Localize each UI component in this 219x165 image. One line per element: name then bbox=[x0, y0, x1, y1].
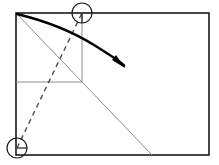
geometric-construction-figure bbox=[0, 0, 219, 165]
curved-motion-arrow bbox=[17, 14, 124, 66]
diagram-canvas bbox=[0, 0, 219, 165]
diagonal-construction-line bbox=[16, 13, 152, 155]
outer-rectangle bbox=[16, 13, 209, 155]
